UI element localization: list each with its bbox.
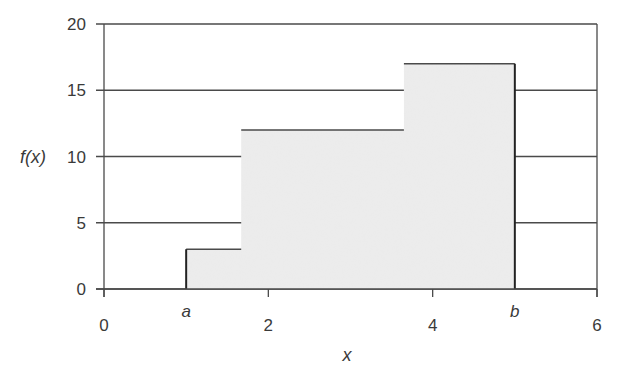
x-tick-label: 4 [428,316,437,335]
y-tick-label: 20 [67,15,86,34]
step-function-chart: 0246ab 05101520 f(x) x [0,0,619,379]
y-axis-label: f(x) [20,147,46,167]
y-axis-ticks: 05101520 [67,15,86,299]
x-annotation-a: a [181,302,190,321]
x-tick-label: 0 [99,316,108,335]
x-annotation-b: b [510,302,519,321]
x-tick-label: 6 [592,316,601,335]
x-tick-label: 2 [264,316,273,335]
step-area [186,64,515,289]
step-area-fill [186,64,515,289]
y-tick-label: 10 [67,148,86,167]
chart-canvas: 0246ab 05101520 f(x) x [0,0,619,379]
y-tick-label: 15 [67,81,86,100]
y-tick-label: 5 [77,214,86,233]
y-tick-label: 0 [77,280,86,299]
x-axis-label: x [342,345,353,365]
x-axis-ticks: 0246ab [99,289,601,335]
